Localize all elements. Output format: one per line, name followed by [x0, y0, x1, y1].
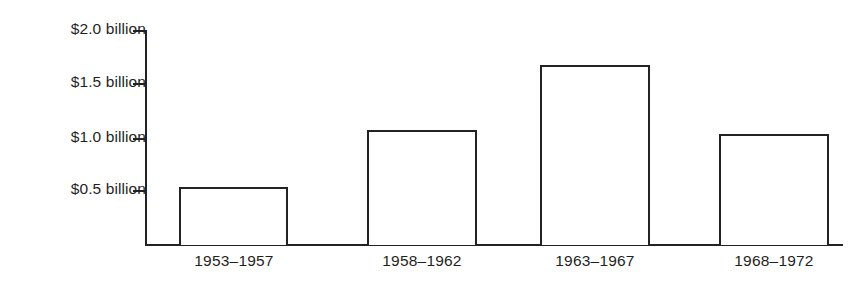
x-label-1958-1962: 1958–1962 — [352, 252, 492, 270]
bar-1963-1967 — [540, 65, 650, 245]
y-tick-group-2-0: $2.0 billion — [0, 30, 146, 32]
y-tick-mark-1-0 — [133, 138, 146, 140]
y-tick-group-0-5: $0.5 billion — [0, 190, 146, 192]
bar-1958-1962 — [367, 130, 477, 245]
y-tick-label-0-5: $0.5 billion — [24, 180, 146, 198]
x-label-1963-1967: 1963–1967 — [525, 252, 665, 270]
bar-chart: $2.0 billion $1.5 billion $1.0 billion $… — [0, 0, 848, 295]
y-tick-label-1-5: $1.5 billion — [24, 73, 146, 91]
y-tick-label-2-0: $2.0 billion — [24, 20, 146, 38]
y-tick-mark-0-5 — [133, 190, 146, 192]
x-label-1968-1972: 1968–1972 — [704, 252, 844, 270]
bar-1968-1972 — [719, 134, 829, 245]
y-tick-mark-1-5 — [133, 83, 146, 85]
y-tick-group-1-5: $1.5 billion — [0, 83, 146, 85]
y-tick-mark-2-0 — [133, 30, 146, 32]
y-tick-label-1-0: $1.0 billion — [24, 128, 146, 146]
bar-1953-1957 — [179, 187, 288, 245]
y-tick-group-1-0: $1.0 billion — [0, 138, 146, 140]
x-label-1953-1957: 1953–1957 — [164, 252, 304, 270]
